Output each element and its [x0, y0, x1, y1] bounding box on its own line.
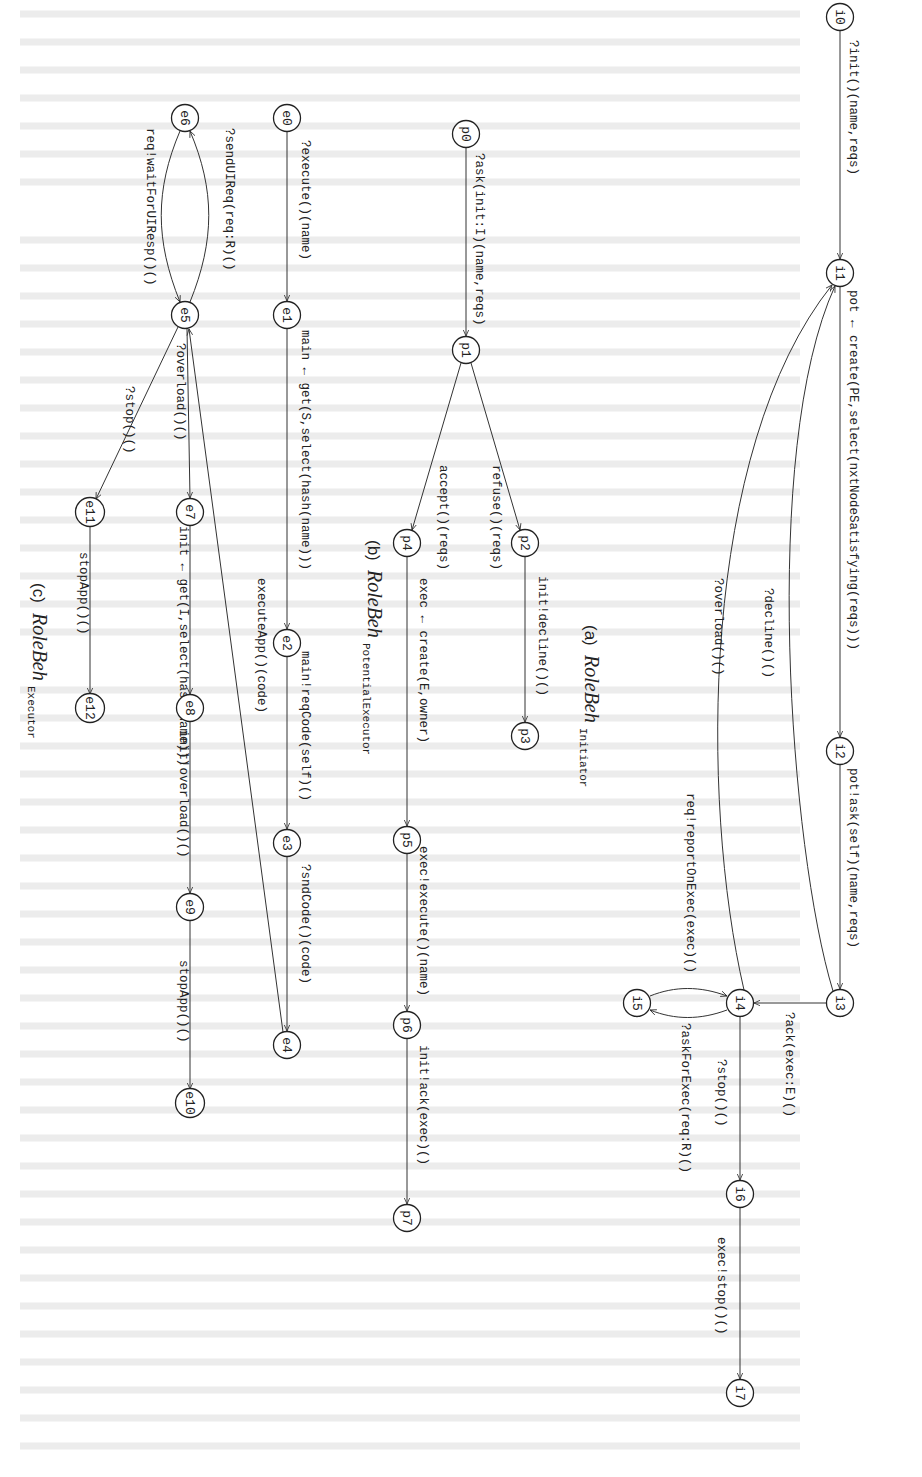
caption-c-name: RoleBeh: [29, 612, 51, 681]
svg-text:p2: p2: [517, 535, 532, 551]
svg-text:e5: e5: [177, 307, 192, 323]
label-e5-e11: ?stop()(): [122, 386, 136, 454]
label-e4-e5: executeApp()(code): [254, 578, 268, 713]
label-i4-i5: ?askForExec(req:R)(): [678, 1023, 692, 1173]
label-i6-i7: exec!stop()(): [714, 1237, 728, 1335]
state-e11: e11: [76, 498, 105, 527]
label-p1-p2: refuse()(reqs): [489, 465, 503, 570]
svg-text:i3: i3: [832, 995, 847, 1011]
label-e5-e6: ?sendUIReq(req:R)(): [222, 128, 236, 271]
edge-i4-i5: [650, 1010, 727, 1018]
svg-text:e6: e6: [177, 110, 192, 126]
subfigure-potential-executor: ?ask(init:I)(name,reqs) refuse()(reqs) i…: [360, 121, 549, 1232]
svg-text:i7: i7: [732, 1385, 747, 1401]
svg-text:e12: e12: [82, 696, 97, 719]
caption-a-letter: (a): [581, 625, 600, 646]
state-p2: p2: [512, 530, 539, 557]
state-e10: e10: [176, 1089, 205, 1118]
label-e9-e10: stopApp()(): [176, 960, 190, 1043]
svg-text:i6: i6: [732, 1186, 747, 1202]
svg-text:p0: p0: [458, 126, 473, 142]
label-e3-e4: ?sndCode()(code): [298, 864, 312, 984]
svg-text:e10: e10: [182, 1091, 197, 1114]
state-e12: e12: [76, 694, 105, 723]
label-p2-p3: init!decline()(): [535, 576, 549, 696]
state-e1: e1: [274, 302, 301, 329]
state-p0: p0: [453, 121, 480, 148]
label-e5-e7: ?overload()(): [173, 343, 187, 441]
label-i2-i3: pot!ask(self)(name,reqs): [846, 768, 860, 948]
svg-text:i1: i1: [832, 265, 847, 281]
caption-b-name: RoleBeh: [364, 569, 386, 638]
state-p1: p1: [453, 337, 480, 364]
svg-text:e4: e4: [279, 1037, 294, 1053]
state-i7: i7: [727, 1380, 754, 1407]
state-e2: e2: [274, 630, 301, 657]
svg-text:e2: e2: [279, 635, 294, 651]
state-e6: e6: [172, 105, 199, 132]
svg-text:p4: p4: [399, 535, 414, 551]
state-i4: i4: [727, 990, 754, 1017]
svg-text:p3: p3: [517, 728, 532, 744]
svg-text:p7: p7: [399, 1210, 414, 1226]
label-p0-p1: ?ask(init:I)(name,reqs): [472, 153, 486, 326]
state-i3: i3: [827, 990, 854, 1017]
label-i3-i4: ?ack(exec:E)(): [782, 1012, 796, 1117]
svg-text:i5: i5: [629, 995, 644, 1011]
figure-canvas: ?init()(name,reqs) pot ← create(PE,selec…: [0, 0, 922, 1477]
label-p1-p4: accept()(reqs): [436, 465, 450, 570]
state-i5: i5: [624, 990, 651, 1017]
label-i5-i4: req!reportOnExec(exec)(): [683, 793, 697, 973]
label-i4-i6: ?stop()(): [714, 1059, 728, 1127]
svg-text:e11: e11: [82, 500, 97, 524]
state-i0: i0: [827, 4, 854, 31]
svg-text:p5: p5: [399, 832, 414, 848]
label-i3-i1: ?decline()(): [761, 588, 775, 678]
caption-b: (b) RoleBeh PotentialExecutor: [360, 540, 386, 755]
state-e9: e9: [177, 894, 204, 921]
state-e0: e0: [274, 105, 301, 132]
caption-a-name: RoleBeh: [581, 654, 603, 723]
state-p4: p4: [394, 530, 421, 557]
label-p4-p5: exec ← create(E,owner): [416, 578, 430, 743]
svg-text:e7: e7: [182, 504, 197, 520]
svg-text:i2: i2: [832, 743, 847, 759]
subfigure-executor: ?execute()(name) main ← get(S,select(has…: [25, 105, 312, 1118]
label-e8-e9: init!overload()(): [176, 730, 190, 858]
state-e5: e5: [172, 302, 199, 329]
label-p5-p6: exec!execute()(name): [416, 846, 430, 996]
label-i0-i1: ?init()(name,reqs): [846, 40, 860, 175]
state-e7: e7: [177, 499, 204, 526]
svg-text:e9: e9: [182, 899, 197, 915]
label-e6-e5: req!waitForUIResp()(): [143, 128, 157, 286]
svg-text:p1: p1: [458, 342, 473, 358]
state-p3: p3: [512, 723, 539, 750]
caption-b-letter: (b): [364, 540, 383, 561]
label-i4-i1: ?overload()(): [711, 578, 725, 676]
label-p6-p7: init!ack(exec)(): [416, 1045, 430, 1165]
state-i6: i6: [727, 1181, 754, 1208]
label-e2-e3: main!reqCode(self)(): [298, 651, 312, 801]
svg-text:i0: i0: [832, 9, 847, 25]
state-i1: i1: [827, 260, 854, 287]
label-e11-e12: stopApp()(): [76, 552, 90, 635]
state-e4: e4: [274, 1032, 301, 1059]
caption-b-subscript: PotentialExecutor: [360, 643, 372, 755]
label-e1-e2: main ← get(S,select(hash(name))): [298, 330, 312, 570]
svg-text:e0: e0: [279, 110, 294, 126]
state-e8: e8: [177, 695, 204, 722]
state-p7: p7: [394, 1205, 421, 1232]
caption-a: (a) RoleBeh Initiator: [577, 625, 603, 787]
svg-text:p6: p6: [399, 1017, 414, 1033]
svg-text:e8: e8: [182, 700, 197, 716]
state-e3: e3: [274, 830, 301, 857]
svg-text:e1: e1: [279, 307, 294, 323]
label-i1-i2: pot ← create(PE,select(nxtNodeSatisfying…: [846, 290, 860, 650]
caption-c-subscript: Executor: [25, 686, 37, 739]
svg-text:i4: i4: [732, 995, 747, 1011]
state-p6: p6: [394, 1012, 421, 1039]
state-p5: p5: [394, 827, 421, 854]
svg-text:e3: e3: [279, 835, 294, 851]
caption-a-subscript: Initiator: [577, 728, 589, 787]
caption-c-letter: (c): [29, 583, 48, 603]
